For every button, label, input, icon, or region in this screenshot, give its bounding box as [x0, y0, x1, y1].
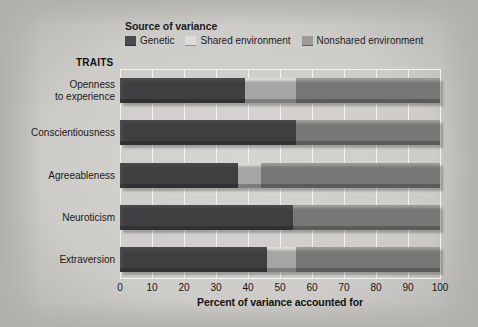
bar-shadow: [123, 250, 443, 275]
bar-shadow: [123, 166, 443, 191]
x-tick-label: 70: [338, 282, 349, 293]
legend-item-label: Nonshared environment: [317, 35, 424, 46]
legend-swatch-nonshared-icon: [302, 36, 313, 46]
bar-shadow: [123, 123, 443, 148]
trait-label-line: Neuroticism: [2, 212, 115, 224]
trait-label-line: Extraversion: [2, 254, 115, 266]
bar-shadow: [123, 208, 443, 233]
x-tick-label: 90: [402, 282, 413, 293]
legend-item-label: Genetic: [140, 35, 174, 46]
bars-layer: Opennessto experienceConscientiousnessAg…: [0, 0, 478, 327]
x-tick-label: 40: [242, 282, 253, 293]
x-axis-title: Percent of variance accounted for: [120, 296, 440, 308]
legend-swatch-genetic-icon: [125, 36, 136, 46]
legend-item-label: Shared environment: [200, 35, 290, 46]
chart-figure: Source of variance GeneticShared environ…: [0, 0, 478, 327]
trait-label: Extraversion: [2, 254, 115, 266]
trait-label: Conscientiousness: [2, 127, 115, 139]
trait-label-line: Agreeableness: [2, 170, 115, 182]
x-tick-label: 10: [146, 282, 157, 293]
x-tick-label: 20: [178, 282, 189, 293]
trait-label: Opennessto experience: [2, 79, 115, 102]
x-tick-label: 0: [117, 282, 123, 293]
legend-items: GeneticShared environmentNonshared envir…: [125, 35, 455, 46]
trait-label: Neuroticism: [2, 212, 115, 224]
chart-legend: Source of variance GeneticShared environ…: [125, 20, 455, 46]
trait-label-line: to experience: [2, 91, 115, 103]
trait-label-line: Openness: [2, 79, 115, 91]
x-tick-label: 100: [432, 282, 449, 293]
bar-shadow: [123, 81, 443, 106]
x-tick-label: 50: [274, 282, 285, 293]
x-tick-label: 80: [370, 282, 381, 293]
legend-item-shared-environment: Shared environment: [185, 35, 290, 46]
legend-title: Source of variance: [125, 20, 455, 32]
legend-swatch-shared-icon: [185, 36, 196, 46]
x-tick-label: 30: [210, 282, 221, 293]
x-tick-label: 60: [306, 282, 317, 293]
trait-label: Agreeableness: [2, 170, 115, 182]
trait-label-line: Conscientiousness: [2, 127, 115, 139]
legend-item-genetic: Genetic: [125, 35, 174, 46]
y-axis-title: TRAITS: [76, 57, 113, 68]
legend-item-nonshared-environment: Nonshared environment: [302, 35, 424, 46]
